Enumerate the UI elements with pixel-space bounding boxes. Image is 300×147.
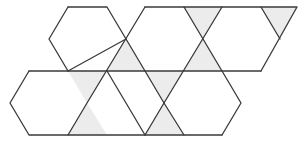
shaded-triangle (145, 103, 184, 135)
shaded-triangle (68, 71, 107, 103)
shaded-triangle (261, 7, 297, 39)
shaded-triangle (107, 39, 145, 71)
shaded-triangle (184, 39, 222, 71)
tessellation-edges (10, 7, 297, 135)
shaded-triangle (184, 7, 222, 39)
shaded-triangle (145, 71, 184, 103)
edge-line (107, 71, 145, 135)
edge-line (49, 7, 68, 71)
edge-line (10, 71, 222, 135)
shaded-triangle (68, 103, 107, 135)
hexagon-tessellation-diagram (0, 0, 300, 147)
